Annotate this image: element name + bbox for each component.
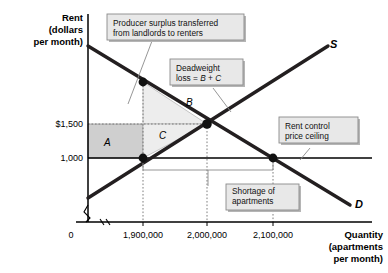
- callout-deadweight-line2: loss = B + C: [176, 73, 222, 83]
- callout-deadweight-line2-plus: +: [206, 73, 215, 83]
- x-axis-title-line2: (apartments: [329, 241, 383, 252]
- area-label-b: B: [186, 97, 193, 108]
- x-tick-label-2100000: 2,100,000: [253, 230, 293, 240]
- callout-rent-control: Rent control price ceiling: [279, 117, 360, 145]
- x-tick-label-2000000: 2,000,000: [187, 230, 227, 240]
- callout-producer-surplus: Producer surplus transferred from landlo…: [107, 14, 246, 42]
- demand-curve-label: D: [355, 198, 363, 210]
- callout-rent-control-line2: price ceiling: [285, 131, 329, 141]
- x-tick-label-origin: 0: [68, 230, 73, 240]
- callout-producer-surplus-line2: from landlords to renters: [113, 28, 203, 38]
- area-a-shape: [88, 124, 143, 158]
- point-demand-at-ceiling-quantity-supplied: [139, 78, 148, 87]
- point-supply-at-ceiling: [139, 154, 148, 163]
- area-b-shape: [143, 82, 207, 124]
- y-axis-title-line1: Rent: [62, 12, 84, 23]
- point-equilibrium: [202, 119, 212, 129]
- x-axis-title-line3: per month): [333, 253, 383, 264]
- rent-control-diagram: S D A B C Rent (dollars per month) $1,50…: [0, 0, 388, 273]
- area-label-a: A: [103, 137, 111, 148]
- callout-shortage-line1: Shortage of: [232, 186, 276, 196]
- y-axis-title-line2: (dollars: [49, 24, 83, 35]
- area-label-c: C: [159, 130, 167, 141]
- callout-deadweight-line2-c: C: [215, 73, 222, 83]
- x-tick-label-1900000: 1,900,000: [123, 230, 163, 240]
- callout-deadweight-loss: Deadweight loss = B + C: [170, 59, 245, 87]
- supply-curve-label: S: [330, 38, 338, 50]
- y-axis-title-line3: per month): [33, 36, 83, 47]
- callout-shortage: Shortage of apartments: [226, 184, 301, 212]
- x-axis-title-line1: Quantity: [344, 229, 383, 240]
- callout-shortage-line2: apartments: [232, 196, 274, 206]
- callout-deadweight-line2-pre: loss =: [176, 73, 200, 83]
- callout-deadweight-line1: Deadweight: [176, 63, 221, 73]
- callout-producer-surplus-line1: Producer surplus transferred: [113, 18, 219, 28]
- y-tick-label-1000: 1,000: [60, 153, 83, 163]
- point-demand-at-ceiling: [269, 154, 278, 163]
- callout-rent-control-line1: Rent control: [285, 121, 330, 131]
- y-tick-label-1500: $1,500: [55, 119, 83, 129]
